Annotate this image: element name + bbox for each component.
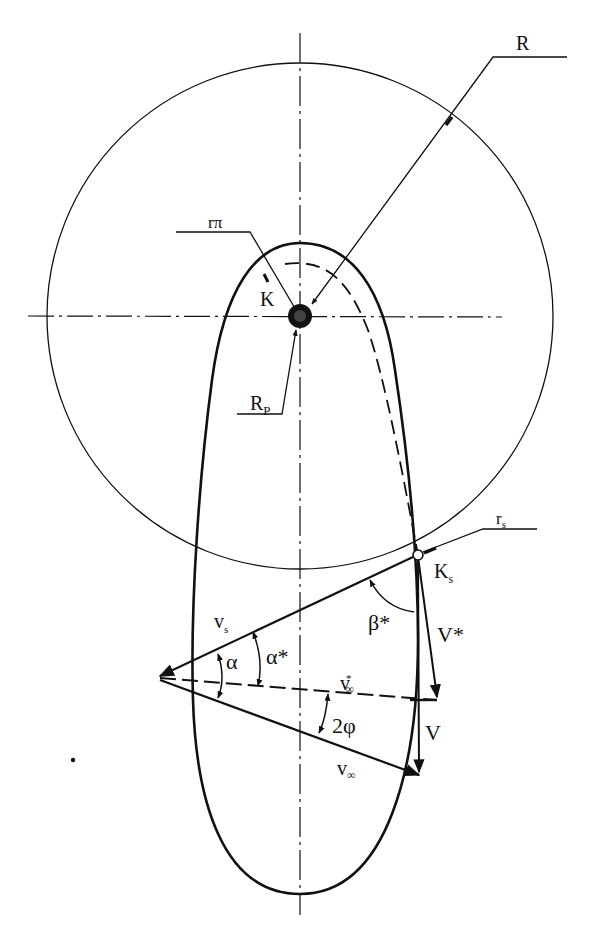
label-alpha-star: α* [266,644,289,669]
point-K-s [413,550,423,560]
rs-leader [423,529,537,552]
label-K: K [260,288,275,310]
radius-R-tick [446,117,452,125]
horizontal-centerline [28,316,502,317]
label-v-inf: v∞ [337,757,356,782]
label-V-star: V* [437,622,464,647]
vector-V [418,557,419,772]
arc-beta-star [370,580,414,612]
label-two-phi: 2φ [332,713,356,738]
arc-alpha-star [253,632,260,686]
planet-radius-leader [237,330,296,414]
arc-alpha [218,654,222,698]
label-V: V [425,720,441,745]
radius-R-leader [312,57,567,304]
label-alpha: α [226,649,238,674]
planet-texture [294,310,306,322]
orbital-diagram: R rπ K RP rs Ks vs α α* β* V* v*∞ 2φ V v… [0,0,607,938]
rs-tick [424,548,436,553]
label-r-pi: rπ [208,213,223,232]
label-R: R [516,32,530,54]
stray-dot [71,758,75,762]
label-v-s: vs [214,610,228,635]
label-r-s: rs [496,509,506,530]
label-K-s: Ks [434,560,453,586]
pericenter-tick [264,274,268,282]
vector-v-inf-star [160,678,437,700]
label-v-inf-star: v*∞ [340,672,354,696]
label-beta-star: β* [368,610,390,635]
arc-two-phi [319,694,328,733]
pericenter-leader [176,232,296,310]
